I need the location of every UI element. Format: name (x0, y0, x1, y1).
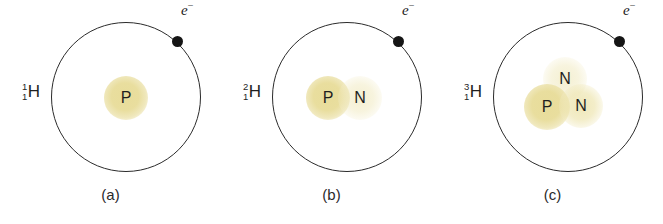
panel-protium: e− 1 1 H P (a) (0, 0, 221, 224)
nucleon-label: N (354, 89, 366, 107)
panel-caption: (b) (221, 186, 442, 203)
nucleon-proton: P (104, 76, 148, 120)
panel-deuterium: e− 2 1 H P N (b) (221, 0, 442, 224)
panel-caption: (a) (0, 186, 221, 203)
nucleon-label: N (575, 97, 587, 115)
isotope-notation: 1 1 H (22, 82, 40, 102)
nucleon-label: P (542, 98, 553, 116)
isotope-notation: 3 1 H (464, 82, 482, 102)
electron-label-base: e (181, 2, 188, 18)
isotope-numbers: 2 1 (243, 82, 248, 102)
element-symbol: H (470, 83, 482, 100)
nucleon-label: N (559, 70, 571, 88)
isotope-numbers: 3 1 (464, 82, 469, 102)
electron-dot-icon (614, 36, 625, 47)
isotope-numbers: 1 1 (22, 82, 27, 102)
panel-caption: (c) (442, 186, 663, 203)
electron-label-base: e (402, 2, 409, 18)
atomic-number: 1 (22, 92, 27, 102)
nucleon-label: P (323, 89, 334, 107)
electron-label: e− (181, 2, 194, 19)
electron-charge-superscript: − (630, 0, 636, 11)
electron-charge-superscript: − (188, 0, 194, 11)
electron-dot-icon (172, 36, 183, 47)
nucleon-neutron-right: N (559, 84, 603, 128)
atomic-number: 1 (464, 92, 469, 102)
electron-dot-icon (393, 36, 404, 47)
electron-charge-superscript: − (409, 0, 415, 11)
isotope-figure: e− 1 1 H P (a) e− 2 1 H P N (0, 0, 663, 224)
electron-label-base: e (623, 2, 630, 18)
panel-tritium: e− 3 1 H N P N (c) (442, 0, 663, 224)
electron-label: e− (402, 2, 415, 19)
element-symbol: H (28, 83, 40, 100)
nucleon-label: P (121, 89, 132, 107)
atomic-number: 1 (243, 92, 248, 102)
nucleon-neutron: N (338, 76, 382, 120)
element-symbol: H (249, 83, 261, 100)
isotope-notation: 2 1 H (243, 82, 261, 102)
electron-label: e− (623, 2, 636, 19)
